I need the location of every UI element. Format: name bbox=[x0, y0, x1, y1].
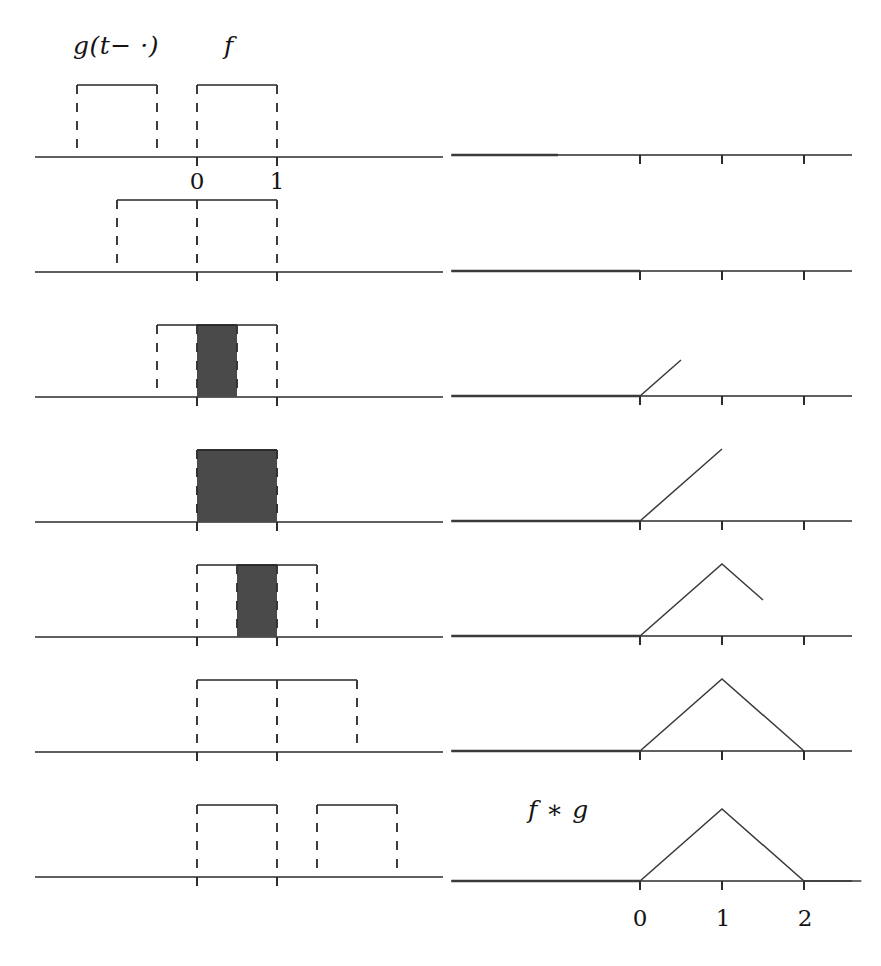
overlap-shading bbox=[237, 565, 277, 637]
right-row-3 bbox=[451, 360, 852, 405]
right-row-7 bbox=[451, 809, 861, 890]
overlap-shading bbox=[197, 325, 237, 397]
convolution-trace bbox=[451, 809, 861, 881]
right-row-6 bbox=[451, 679, 852, 760]
left-column-svg bbox=[0, 0, 460, 966]
left-tick-label-1: 1 bbox=[262, 168, 292, 194]
right-row-5 bbox=[451, 564, 852, 645]
convolution-trace bbox=[451, 449, 722, 521]
convolution-trace bbox=[451, 679, 804, 751]
convolution-trace bbox=[451, 360, 681, 396]
left-row-5 bbox=[35, 565, 443, 646]
left-tick-label-0: 0 bbox=[182, 168, 212, 194]
right-tick-label-2: 2 bbox=[790, 905, 820, 931]
label-f: f bbox=[224, 31, 234, 60]
right-row-2 bbox=[451, 271, 852, 280]
convolution-trace bbox=[451, 564, 763, 636]
left-row-6 bbox=[35, 680, 443, 761]
left-row-4 bbox=[35, 450, 443, 531]
convolution-figure: g(t− ·) f f ∗ g 0 1 0 1 2 bbox=[0, 0, 881, 966]
overlap-shading bbox=[197, 450, 277, 522]
left-row-1 bbox=[35, 85, 443, 166]
right-tick-label-1: 1 bbox=[708, 905, 738, 931]
left-row-2 bbox=[35, 200, 443, 281]
label-convolution: f ∗ g bbox=[528, 795, 589, 824]
left-column-panel bbox=[0, 0, 460, 966]
left-row-7 bbox=[35, 805, 443, 886]
left-row-3 bbox=[35, 325, 443, 406]
right-column-panel bbox=[460, 0, 881, 966]
right-column-svg bbox=[460, 0, 881, 966]
right-row-1 bbox=[451, 155, 852, 164]
label-g-shifted: g(t− ·) bbox=[73, 31, 159, 60]
right-tick-label-0: 0 bbox=[625, 905, 655, 931]
right-row-4 bbox=[451, 449, 852, 530]
